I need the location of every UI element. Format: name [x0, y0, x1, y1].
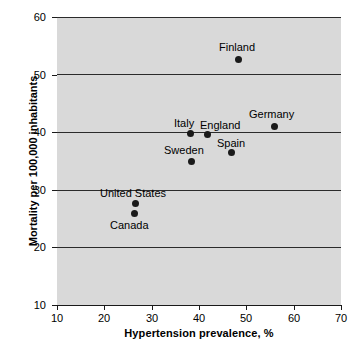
data-point-united-states[interactable]	[132, 200, 139, 207]
y-tick-20	[52, 247, 57, 248]
data-point-spain[interactable]	[228, 149, 235, 156]
x-tick-70	[341, 305, 342, 310]
point-label-italy: Italy	[174, 118, 194, 129]
y-tick-40	[52, 132, 57, 133]
y-tick-30	[52, 190, 57, 191]
data-point-finland[interactable]	[235, 56, 242, 63]
y-axis-title: Mortality per 100,000 inhabitants	[27, 46, 39, 276]
x-tick-30	[152, 305, 153, 310]
x-tick-50	[246, 305, 247, 310]
x-tick-label-50: 50	[231, 313, 261, 324]
point-label-finland: Finland	[219, 42, 255, 53]
point-label-sweden: Sweden	[164, 145, 204, 156]
point-label-germany: Germany	[249, 109, 294, 120]
gridline-40	[57, 132, 341, 133]
x-tick-40	[199, 305, 200, 310]
x-tick-label-10: 10	[42, 313, 72, 324]
x-axis-title: Hypertension prevalence, %	[57, 327, 341, 339]
x-tick-label-20: 20	[89, 313, 119, 324]
y-tick-10	[52, 305, 57, 306]
x-tick-20	[104, 305, 105, 310]
scatter-chart-figure: 60 50 40 30 20 10 10 20 30 40 50 60 70 H…	[0, 0, 357, 347]
data-point-england[interactable]	[204, 131, 211, 138]
point-label-united-states: United States	[100, 188, 166, 199]
x-tick-label-60: 60	[279, 313, 309, 324]
y-tick-50	[52, 75, 57, 76]
gridline-20	[57, 247, 341, 248]
x-tick-10	[57, 305, 58, 310]
x-tick-label-40: 40	[184, 313, 214, 324]
data-point-italy[interactable]	[187, 130, 194, 137]
y-tick-label-10: 10	[16, 300, 46, 311]
point-label-canada: Canada	[110, 220, 149, 231]
data-point-canada[interactable]	[131, 210, 138, 217]
gridline-60	[57, 17, 341, 18]
data-point-sweden[interactable]	[188, 158, 195, 165]
point-label-spain: Spain	[217, 138, 245, 149]
gridline-50	[57, 74, 341, 75]
data-point-germany[interactable]	[271, 123, 278, 130]
y-tick-60	[52, 17, 57, 18]
y-tick-label-60: 60	[16, 12, 46, 23]
x-tick-label-70: 70	[326, 313, 356, 324]
point-label-england: England	[200, 120, 240, 131]
x-tick-label-30: 30	[137, 313, 167, 324]
plot-area	[57, 17, 341, 305]
x-tick-60	[294, 305, 295, 310]
